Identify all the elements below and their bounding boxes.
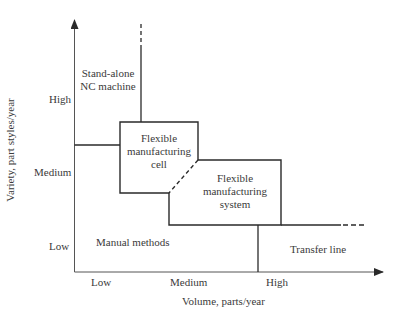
region-label-line: Flexible xyxy=(190,172,280,185)
region-label-line: Stand-alone xyxy=(78,67,138,80)
region-label-line: manufacturing xyxy=(190,185,280,198)
diagram-canvas xyxy=(0,0,396,320)
region-label-line: Flexible xyxy=(120,132,198,145)
y-tick-low: Low xyxy=(49,240,69,253)
region-label-line: cell xyxy=(120,158,198,171)
region-manual-methods: Manual methods xyxy=(96,236,170,249)
x-axis-label: Volume, parts/year xyxy=(182,295,265,308)
region-label-line: NC machine xyxy=(78,80,138,93)
region-stand-alone-nc: Stand-alone NC machine xyxy=(78,67,138,93)
region-fmc: Flexible manufacturing cell xyxy=(120,132,198,171)
region-transfer-line: Transfer line xyxy=(290,243,346,256)
y-axis-label: Variety, part styles/year xyxy=(4,98,16,201)
y-tick-high: High xyxy=(49,93,71,106)
x-tick-high: High xyxy=(266,276,288,289)
region-label-line: system xyxy=(190,198,280,211)
region-fms: Flexible manufacturing system xyxy=(190,172,280,211)
x-tick-low: Low xyxy=(91,276,111,289)
x-tick-medium: Medium xyxy=(170,276,207,289)
y-tick-medium: Medium xyxy=(34,166,71,179)
region-label-line: manufacturing xyxy=(120,145,198,158)
